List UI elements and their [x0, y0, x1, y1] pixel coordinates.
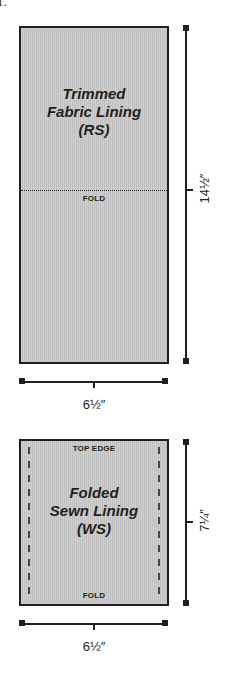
fold-line	[21, 190, 167, 191]
panel-title: Trimmed Fabric Lining (RS)	[21, 85, 167, 139]
title-line-3: (RS)	[21, 121, 167, 139]
dimension-endpoint-right	[162, 378, 168, 384]
panel-title: Folded Sewn Lining (WS)	[21, 484, 167, 538]
dimension-endpoint-bottom	[183, 358, 189, 364]
title-line-2: Fabric Lining	[21, 103, 167, 121]
folded-sewn-lining-panel: TOP EDGE Folded Sewn Lining (WS) FOLD	[19, 439, 169, 606]
height-dimension-tick	[185, 189, 193, 191]
dimension-endpoint-bottom	[183, 600, 189, 606]
height-dimension-line	[185, 28, 187, 362]
height-dimension-line	[185, 442, 187, 604]
height-label-7-25: 7¼″	[197, 506, 212, 536]
fold-label: FOLD	[21, 194, 167, 203]
trimmed-fabric-lining-panel: Trimmed Fabric Lining (RS) FOLD	[19, 26, 169, 364]
top-edge-label: TOP EDGE	[21, 444, 167, 453]
fold-label: FOLD	[21, 591, 167, 600]
width-label-6-5: 6½″	[73, 639, 115, 654]
cropped-caption-fragment: 1.	[0, 0, 7, 10]
dimension-endpoint-right	[162, 620, 168, 626]
width-label-6-5: 6½″	[73, 397, 115, 412]
height-label-14-5: 14½″	[197, 174, 212, 204]
title-line-3: (WS)	[21, 520, 167, 538]
width-dimension-tick	[93, 623, 95, 630]
title-line-1: Trimmed	[21, 85, 167, 103]
title-line-2: Sewn Lining	[21, 502, 167, 520]
title-line-1: Folded	[21, 484, 167, 502]
height-dimension-tick	[185, 521, 193, 523]
width-dimension-tick	[93, 381, 95, 388]
